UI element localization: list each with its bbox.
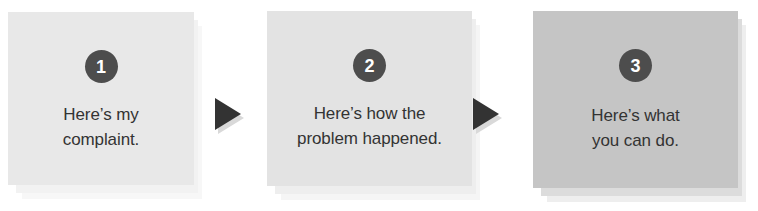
step-number-badge: 2 (353, 49, 386, 82)
step-number-badge: 3 (619, 49, 652, 82)
step-card-face: 2Here’s how the problem happened. (267, 11, 472, 186)
step-number-badge: 1 (85, 50, 118, 83)
step-caption-text: Here’s what you can do. (585, 103, 685, 153)
step-card-face: 3Here’s what you can do. (533, 11, 738, 188)
step-panel-3: 3Here’s what you can do. (533, 11, 738, 188)
step-caption-text: Here’s how the problem happened. (291, 101, 448, 151)
step-panel-2: 2Here’s how the problem happened. (267, 11, 472, 186)
process-flow-diagram: 1Here’s my complaint.2Here’s how the pro… (0, 0, 758, 211)
step-caption-text: Here’s my complaint. (57, 102, 145, 152)
flow-arrow-icon-step-1-to-step-2 (212, 95, 246, 135)
step-panel-1: 1Here’s my complaint. (8, 12, 194, 185)
step-card-face: 1Here’s my complaint. (8, 12, 194, 185)
flow-arrow-icon-step-2-to-step-3 (470, 95, 504, 135)
